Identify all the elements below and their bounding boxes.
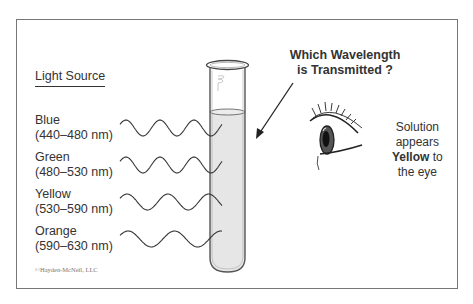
arrow-shaft: [259, 83, 293, 134]
arrow-head-icon: [256, 128, 264, 139]
source-name: Blue: [35, 113, 113, 128]
solution-line-4: the eye: [392, 165, 443, 180]
source-range: (440–480 nm): [35, 128, 113, 143]
source-label-blue: Blue (440–480 nm): [35, 113, 113, 143]
test-tube: [207, 61, 249, 273]
glass-glint: [218, 76, 224, 91]
source-name: Green: [35, 150, 113, 165]
wave-orange: [120, 231, 222, 247]
arrow: [256, 83, 293, 139]
wave-blue: [120, 120, 222, 136]
wave-yellow: [120, 194, 222, 210]
solution-line-3-suffix: to: [429, 150, 442, 164]
eye-icon: [310, 102, 362, 170]
solution-line-2: appears: [392, 135, 443, 150]
source-name: Yellow: [35, 187, 113, 202]
source-range: (480–530 nm): [35, 165, 113, 180]
liquid-meniscus: [210, 109, 245, 115]
source-range: (590–630 nm): [35, 239, 113, 254]
solution-caption: Solution appears Yellow to the eye: [392, 120, 443, 180]
source-label-orange: Orange (590–630 nm): [35, 224, 113, 254]
solution-line-1: Solution: [392, 120, 443, 135]
source-range: (530–590 nm): [35, 202, 113, 217]
light-waves: [120, 120, 222, 247]
tube-rim: [207, 61, 249, 70]
question-title: Which Wavelength is Transmitted ?: [280, 48, 410, 78]
source-label-green: Green (480–530 nm): [35, 150, 113, 180]
solution-color-word: Yellow: [392, 150, 429, 164]
light-source-heading: Light Source: [35, 69, 105, 87]
question-line-2: is Transmitted ?: [280, 63, 410, 78]
question-line-1: Which Wavelength: [280, 48, 410, 63]
copyright-notice: ©Hayden-McNeil, LLC: [35, 262, 98, 277]
solution-liquid: [210, 112, 245, 272]
solution-line-3: Yellow to: [392, 150, 443, 165]
source-name: Orange: [35, 224, 113, 239]
source-label-yellow: Yellow (530–590 nm): [35, 187, 113, 217]
wave-green: [120, 157, 222, 173]
